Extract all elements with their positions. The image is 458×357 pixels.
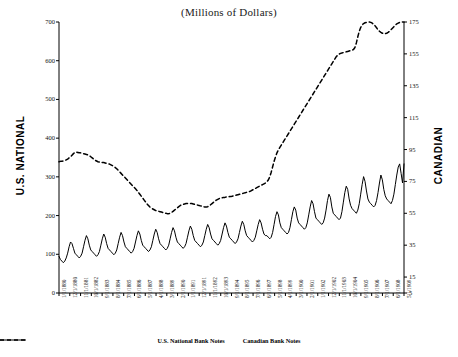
x-tick-label: 12/1/1902 — [331, 277, 337, 298]
x-tick-label: 9/1/1894 — [234, 280, 240, 298]
x-tick-label: 10/1/1893 — [223, 277, 229, 298]
chart-legend: U.S. National Bank NotesCanadian Bank No… — [0, 337, 458, 344]
x-tick-label: 2/1/1890 — [180, 280, 186, 298]
x-tick-label: 9/1/1883 — [104, 280, 110, 298]
left-tick-label: 600 — [27, 57, 55, 64]
series-canadian — [59, 164, 404, 263]
right-tick-label: 95 — [409, 146, 433, 153]
x-tick-label: 8/1/1906 — [374, 280, 380, 298]
legend-label: Canadian Bank Notes — [243, 337, 301, 344]
legend-entry-us-national: U.S. National Bank Notes — [158, 337, 225, 344]
x-tick-label: 9/1/1905 — [363, 280, 369, 298]
legend-entry-canadian: Canadian Bank Notes — [243, 337, 301, 344]
x-tick-label: 11/1/1881 — [83, 277, 89, 298]
x-tick-label: 5/1/1887 — [147, 280, 153, 298]
x-tick-label: 4/1/1888 — [158, 280, 164, 298]
x-tick-label: 1/1/1891 — [190, 280, 196, 298]
x-tick-label: 11/1/1903 — [341, 277, 347, 298]
x-tick-label: 8/1/1895 — [244, 280, 250, 298]
x-tick-label: 5/1/1909 — [406, 280, 412, 298]
right-tick-label: 135 — [409, 82, 433, 89]
x-tick-label: 3/1/1900 — [298, 280, 304, 298]
x-tick-label: 5/1/1898 — [277, 280, 283, 298]
plot-canvas — [0, 0, 458, 357]
right-tick-label: 115 — [409, 114, 433, 121]
left-tick-label: 500 — [27, 95, 55, 102]
x-tick-label: 7/1/1885 — [126, 280, 132, 298]
x-tick-label: 10/1/1882 — [93, 277, 99, 298]
legend-label: U.S. National Bank Notes — [158, 337, 225, 344]
x-tick-label: 11/1/1892 — [212, 277, 218, 298]
x-tick-label: 3/1/1889 — [169, 280, 175, 298]
right-tick-label: 5 — [409, 289, 433, 296]
left-tick-label: 200 — [27, 212, 55, 219]
x-tick-label: 10/1/1904 — [352, 277, 358, 298]
solid-line-icon — [0, 337, 26, 343]
x-tick-label: 6/1/1897 — [266, 280, 272, 298]
x-tick-label: 12/1/1891 — [201, 277, 207, 298]
right-tick-label: 35 — [409, 241, 433, 248]
x-tick-label: 7/1/1896 — [255, 280, 261, 298]
x-tick-label: 1/1/1880 — [61, 280, 67, 298]
right-tick-label: 155 — [409, 50, 433, 57]
right-tick-label: 75 — [409, 177, 433, 184]
x-tick-label: 7/1/1907 — [384, 280, 390, 298]
x-tick-label: 8/1/1884 — [115, 280, 121, 298]
right-tick-label: 55 — [409, 209, 433, 216]
left-tick-label: 400 — [27, 134, 55, 141]
left-tick-label: 100 — [27, 250, 55, 257]
right-tick-label: 15 — [409, 273, 433, 280]
x-tick-label: 1/1/1902 — [320, 280, 326, 298]
x-tick-label: 12/1/1880 — [72, 277, 78, 298]
chart-figure: (Millions of Dollars) U.S. NATIONAL CANA… — [0, 0, 458, 357]
series-us-national — [59, 22, 404, 214]
x-tick-label: 6/1/1886 — [136, 280, 142, 298]
left-tick-label: 700 — [27, 18, 55, 25]
x-tick-label: 2/1/1901 — [309, 280, 315, 298]
left-tick-label: 0 — [27, 289, 55, 296]
x-tick-label: 6/1/1908 — [395, 280, 401, 298]
right-tick-label: 175 — [409, 18, 433, 25]
x-tick-label: 4/1/1899 — [287, 280, 293, 298]
left-tick-label: 300 — [27, 173, 55, 180]
